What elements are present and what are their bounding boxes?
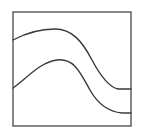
line-diagram: Two nested S-curves in a rectangular fra… [0,0,142,140]
figure-root: Two nested S-curves in a rectangular fra… [0,0,142,140]
diagram-background [0,0,142,140]
